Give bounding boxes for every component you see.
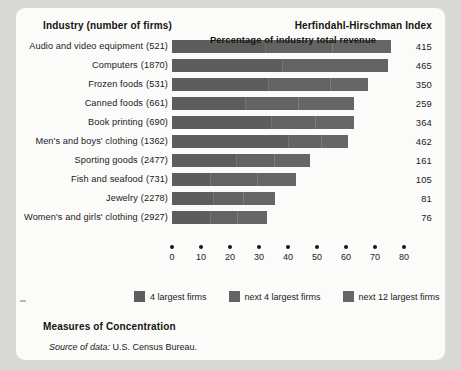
row-label: Fish and seafood(731) bbox=[71, 174, 168, 184]
figure-title: Measures of Concentration bbox=[43, 321, 176, 332]
hhi-value: 364 bbox=[416, 117, 432, 128]
row-label-firm-count: (531) bbox=[146, 79, 168, 89]
row-label-firm-count: (731) bbox=[146, 174, 168, 184]
bar-segment bbox=[274, 154, 310, 167]
axis-tick-label: 40 bbox=[283, 252, 293, 262]
axis-tick-dot bbox=[170, 245, 174, 249]
row-label-industry: Men's and boys' clothing bbox=[35, 136, 137, 146]
bar-segment bbox=[236, 154, 275, 167]
stacked-bar bbox=[172, 135, 348, 148]
bar-segment bbox=[245, 97, 298, 110]
chart-row: Computers(1870)465 bbox=[16, 58, 445, 77]
row-label-industry: Canned foods bbox=[85, 98, 143, 108]
row-label: Computers(1870) bbox=[92, 60, 168, 70]
axis-tick-label: 30 bbox=[254, 252, 264, 262]
axis-tick-label: 20 bbox=[225, 252, 235, 262]
legend-label: 4 largest firms bbox=[150, 292, 207, 302]
row-label: Women's and girls' clothing(2927) bbox=[24, 212, 168, 222]
chart-row: Men's and boys' clothing(1362)462 bbox=[16, 134, 445, 153]
row-label-firm-count: (661) bbox=[146, 98, 168, 108]
bar-segment bbox=[282, 59, 387, 72]
stacked-bar bbox=[172, 192, 275, 205]
axis-tick-label: 10 bbox=[196, 252, 206, 262]
axis-tick-dot bbox=[228, 245, 232, 249]
stacked-bar bbox=[172, 59, 388, 72]
row-label-firm-count: (690) bbox=[146, 117, 168, 127]
chart-legend: 4 largest firmsnext 4 largest firmsnext … bbox=[134, 291, 440, 302]
hhi-value: 161 bbox=[416, 155, 432, 166]
chart-rows: Audio and video equipment(521)415Compute… bbox=[16, 39, 445, 229]
bar-segment bbox=[243, 192, 276, 205]
axis-tick-label: 70 bbox=[370, 252, 380, 262]
row-label: Audio and video equipment(521) bbox=[29, 41, 168, 51]
chart-row: Sporting goods(2477)161 bbox=[16, 153, 445, 172]
axis-tick-label: 0 bbox=[169, 252, 174, 262]
chart-row: Canned foods(661)259 bbox=[16, 96, 445, 115]
chart-row: Women's and girls' clothing(2927)76 bbox=[16, 210, 445, 229]
bar-segment bbox=[288, 135, 321, 148]
bar-segment bbox=[271, 116, 316, 129]
hhi-value: 462 bbox=[416, 136, 432, 147]
chart-row: Jewelry(2278)81 bbox=[16, 191, 445, 210]
x-axis-title: Percentage of industry total revenue bbox=[172, 34, 414, 45]
bar-segment bbox=[172, 192, 213, 205]
row-label-industry: Fish and seafood bbox=[71, 174, 143, 184]
axis-tick-dot bbox=[344, 245, 348, 249]
source-value: U.S. Census Bureau. bbox=[113, 342, 198, 352]
bar-segment bbox=[172, 59, 282, 72]
row-label-industry: Book printing bbox=[88, 117, 143, 127]
bar-segment bbox=[298, 97, 354, 110]
chart-row: Fish and seafood(731)105 bbox=[16, 172, 445, 191]
row-label-industry: Sporting goods bbox=[75, 155, 138, 165]
bar-segment bbox=[172, 154, 236, 167]
bar-segment bbox=[172, 211, 210, 224]
axis-tick-dot bbox=[286, 245, 290, 249]
hhi-value: 81 bbox=[421, 193, 432, 204]
bar-segment bbox=[330, 78, 369, 91]
column-header-industry: Industry (number of firms) bbox=[43, 20, 172, 31]
source-prefix: Source of data: bbox=[49, 342, 110, 352]
figure-source: Source of data: U.S. Census Bureau. bbox=[49, 342, 197, 352]
axis-tick-label: 80 bbox=[399, 252, 409, 262]
page-margin-mark bbox=[20, 300, 26, 302]
row-label-industry: Computers bbox=[92, 60, 138, 70]
legend-swatch bbox=[134, 291, 145, 302]
hhi-value: 415 bbox=[416, 41, 432, 52]
legend-label: next 12 largest firms bbox=[359, 292, 440, 302]
row-label-industry: Audio and video equipment bbox=[29, 41, 143, 51]
axis-tick-dot bbox=[199, 245, 203, 249]
row-label: Canned foods(661) bbox=[85, 98, 168, 108]
bar-segment bbox=[210, 173, 257, 186]
stacked-bar bbox=[172, 78, 368, 91]
hhi-value: 105 bbox=[416, 174, 432, 185]
bar-segment bbox=[172, 78, 268, 91]
legend-item: next 12 largest firms bbox=[343, 291, 440, 302]
hhi-value: 465 bbox=[416, 60, 432, 71]
stacked-bar bbox=[172, 211, 267, 224]
row-label-firm-count: (1870) bbox=[141, 60, 168, 70]
row-label-firm-count: (2927) bbox=[141, 212, 168, 222]
row-label-firm-count: (521) bbox=[146, 41, 168, 51]
axis-tick-label: 50 bbox=[312, 252, 322, 262]
legend-item: next 4 largest firms bbox=[229, 291, 321, 302]
row-label-industry: Frozen foods bbox=[88, 79, 143, 89]
bar-segment bbox=[210, 211, 237, 224]
bar-segment bbox=[172, 97, 245, 110]
row-label-firm-count: (2477) bbox=[141, 155, 168, 165]
hhi-value: 350 bbox=[416, 79, 432, 90]
figure-panel: Industry (number of firms) Herfindahl-Hi… bbox=[16, 8, 445, 360]
bar-segment bbox=[213, 192, 243, 205]
row-label: Jewelry(2278) bbox=[106, 193, 168, 203]
stacked-bar bbox=[172, 116, 354, 129]
stacked-bar bbox=[172, 173, 296, 186]
row-label: Sporting goods(2477) bbox=[75, 155, 168, 165]
hhi-value: 259 bbox=[416, 98, 432, 109]
bar-segment bbox=[172, 135, 288, 148]
row-label-industry: Jewelry bbox=[106, 193, 138, 203]
row-label: Frozen foods(531) bbox=[88, 79, 168, 89]
chart-row: Frozen foods(531)350 bbox=[16, 77, 445, 96]
axis-tick-dot bbox=[402, 245, 406, 249]
column-header-hhi: Herfindahl-Hirschman Index bbox=[295, 20, 432, 31]
stacked-bar bbox=[172, 154, 310, 167]
bar-segment bbox=[172, 116, 271, 129]
